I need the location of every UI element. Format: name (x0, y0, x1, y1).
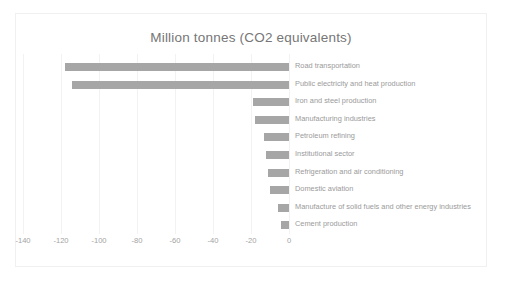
bar (278, 204, 289, 212)
bar-category-label: Cement production (295, 217, 357, 231)
bar (281, 221, 289, 229)
bar-row: Public electricity and heat production (16, 78, 488, 96)
bar (268, 169, 289, 177)
bar-series: Road transportationPublic electricity an… (16, 60, 488, 235)
bar-category-label: Refrigeration and air conditioning (295, 165, 403, 179)
plot-area: Road transportationPublic electricity an… (16, 14, 488, 268)
bar-row: Road transportation (16, 60, 488, 78)
bar-category-label: Public electricity and heat production (295, 77, 415, 91)
bar-row: Manufacture of solid fuels and other ene… (16, 201, 488, 219)
x-tick-label: -100 (91, 236, 106, 245)
bar-row: Manufacturing industries (16, 113, 488, 131)
chart-frame: Million tonnes (CO2 equivalents) Road tr… (15, 13, 487, 267)
bar-row: Cement production (16, 218, 488, 236)
x-tick-label: 0 (287, 236, 291, 245)
bar-category-label: Road transportation (295, 59, 360, 73)
bar-row: Domestic aviation (16, 183, 488, 201)
bar-row: Iron and steel production (16, 95, 488, 113)
x-tick-label: -60 (170, 236, 181, 245)
bar-category-label: Institutional sector (295, 147, 355, 161)
bar-category-label: Petroleum refining (295, 129, 355, 143)
bar-category-label: Domestic aviation (295, 182, 353, 196)
bar-category-label: Manufacturing industries (295, 112, 376, 126)
bar-row: Petroleum refining (16, 130, 488, 148)
bar (253, 98, 289, 106)
bar-row: Institutional sector (16, 148, 488, 166)
bar (72, 81, 289, 89)
bar-row: Refrigeration and air conditioning (16, 166, 488, 184)
x-tick-label: -120 (53, 236, 68, 245)
bar (255, 116, 289, 124)
x-tick-label: -40 (208, 236, 219, 245)
x-tick-label: -20 (246, 236, 257, 245)
bar (264, 133, 289, 141)
x-tick-label: -140 (15, 236, 30, 245)
bar-category-label: Manufacture of solid fuels and other ene… (295, 200, 471, 214)
bar (270, 186, 289, 194)
bar (65, 63, 289, 71)
bar (266, 151, 289, 159)
x-tick-label: -80 (132, 236, 143, 245)
bar-category-label: Iron and steel production (295, 94, 376, 108)
x-axis-tick-labels: -140-120-100-80-60-40-200 (16, 236, 488, 254)
